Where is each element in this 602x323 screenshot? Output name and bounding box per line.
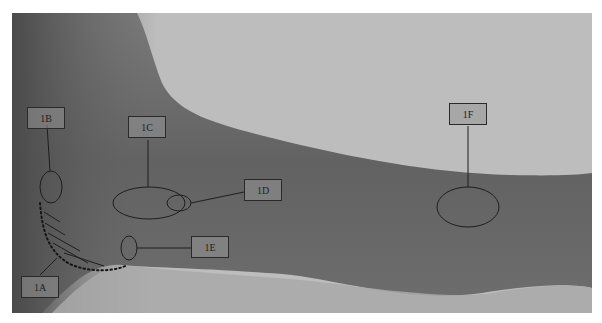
label-1f: 1F [449, 103, 487, 125]
label-1c: 1C [128, 116, 166, 138]
arm-photo: 1B 1C 1D 1E 1F 1A [12, 13, 592, 313]
label-1d: 1D [244, 179, 282, 201]
label-1b: 1B [27, 107, 65, 129]
label-1e: 1E [191, 236, 229, 258]
label-1a: 1A [21, 276, 59, 298]
arm-illustration [12, 13, 592, 313]
